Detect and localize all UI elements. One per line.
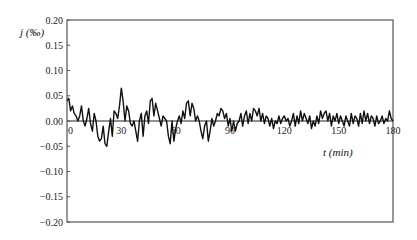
- y-tick-label: 0.20: [46, 15, 64, 26]
- y-tick-label: −0.10: [40, 166, 63, 177]
- x-tick-label: 30: [116, 125, 126, 136]
- x-tick-label: 0: [68, 125, 73, 136]
- x-axis-title: t (min): [323, 146, 353, 159]
- chart: 0.200.150.100.050.00−0.05−0.10−0.15−0.20…: [0, 0, 417, 240]
- x-tick-label: 90: [225, 125, 235, 136]
- y-tick-label: 0.05: [46, 90, 64, 101]
- y-tick-label: 0.00: [46, 116, 64, 127]
- y-tick-label: −0.15: [40, 191, 63, 202]
- y-tick-label: −0.05: [40, 141, 63, 152]
- y-axis-ticks: 0.200.150.100.050.00−0.05−0.10−0.15−0.20: [40, 15, 70, 228]
- series-line-j: [67, 88, 393, 146]
- x-tick-label: 180: [386, 125, 401, 136]
- y-tick-label: 0.10: [46, 65, 64, 76]
- y-axis-title: j (‰): [18, 26, 44, 39]
- y-tick-label: 0.15: [46, 40, 64, 51]
- y-tick-label: −0.20: [40, 217, 63, 228]
